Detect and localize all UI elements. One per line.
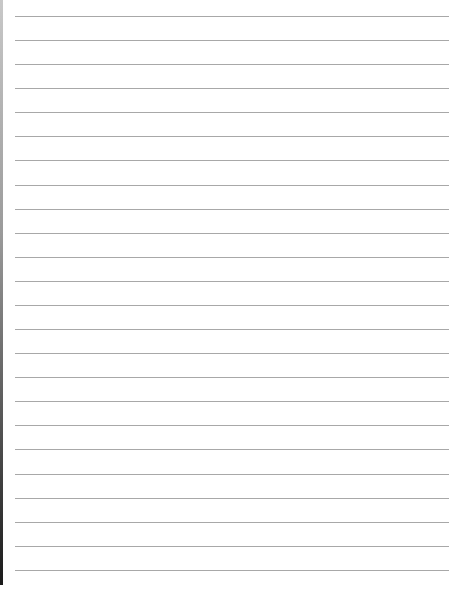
ruled-line: [15, 209, 449, 210]
ruled-line: [15, 570, 449, 571]
ruled-line: [15, 136, 449, 137]
ruled-line: [15, 449, 449, 450]
ruled-line: [15, 112, 449, 113]
ruled-line: [15, 401, 449, 402]
ruled-line: [15, 281, 449, 282]
ruled-line: [15, 498, 449, 499]
ruled-line: [15, 16, 449, 17]
ruled-line: [15, 257, 449, 258]
ruled-line: [15, 88, 449, 89]
ruled-line: [15, 377, 449, 378]
lined-paper-sheet: [0, 0, 459, 603]
ruled-line: [15, 233, 449, 234]
ruled-line: [15, 425, 449, 426]
ruled-line: [15, 160, 449, 161]
ruled-line: [15, 546, 449, 547]
ruled-line: [15, 329, 449, 330]
ruled-line: [15, 522, 449, 523]
ruled-line: [15, 474, 449, 475]
ruled-line: [15, 40, 449, 41]
ruled-line: [15, 185, 449, 186]
left-page-edge: [0, 0, 3, 585]
ruled-line: [15, 64, 449, 65]
ruled-line: [15, 305, 449, 306]
ruled-line: [15, 353, 449, 354]
